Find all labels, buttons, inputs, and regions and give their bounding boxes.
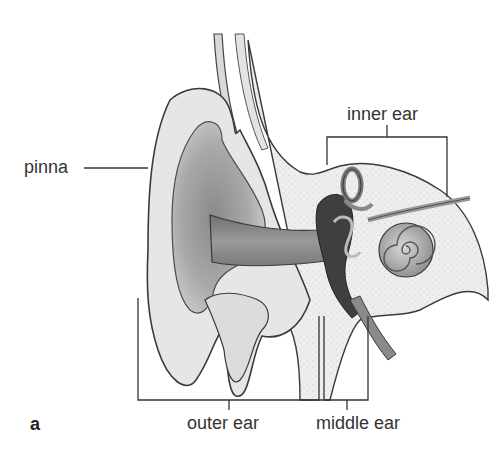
panel-letter: a xyxy=(30,415,40,433)
label-pinna: pinna xyxy=(24,158,68,176)
ear-illustration xyxy=(0,0,503,451)
label-middle-ear: middle ear xyxy=(316,414,400,432)
ear-anatomy-figure: pinna inner ear outer ear middle ear a xyxy=(0,0,503,451)
label-inner-ear: inner ear xyxy=(347,105,418,123)
label-outer-ear: outer ear xyxy=(187,414,259,432)
